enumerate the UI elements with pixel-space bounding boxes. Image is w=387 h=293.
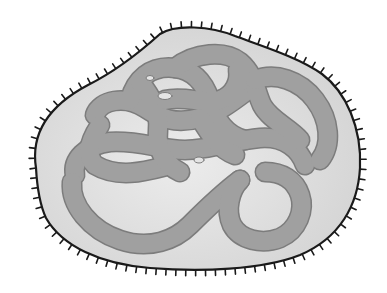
bacterium-diagram <box>0 0 387 293</box>
